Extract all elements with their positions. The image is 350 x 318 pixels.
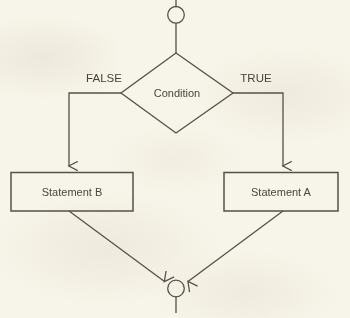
statement-b-label: Statement B	[42, 186, 103, 198]
false-edge-label: FALSE	[86, 72, 122, 84]
start-connector-circle	[168, 7, 185, 24]
flowchart-canvas: Condition FALSE TRUE Statement B Stateme…	[0, 0, 350, 318]
end-connector-circle	[168, 280, 185, 297]
statement-b-to-end-edge	[69, 211, 165, 282]
true-edge-label: TRUE	[240, 72, 272, 84]
statement-a-label: Statement A	[251, 186, 312, 198]
false-branch-edge	[69, 93, 121, 166]
flowchart-svg: Condition FALSE TRUE Statement B Stateme…	[0, 0, 350, 318]
statement-a-to-end-edge	[188, 211, 283, 282]
decision-label: Condition	[154, 87, 200, 99]
true-branch-edge	[233, 93, 283, 166]
